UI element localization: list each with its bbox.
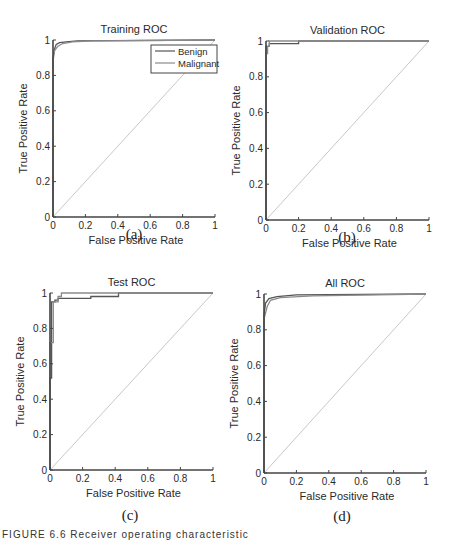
- x-tick-label: 0.4: [322, 476, 336, 487]
- x-tick-label: 0.8: [387, 476, 401, 487]
- x-tick-label: 0.8: [173, 473, 187, 484]
- x-tick-label: 0.8: [176, 220, 190, 231]
- y-tick-label: 1: [257, 36, 263, 47]
- legend-label-malignant: Malignant: [178, 58, 220, 69]
- y-tick-label: 0: [44, 212, 50, 223]
- y-tick-label: 0.2: [33, 429, 47, 440]
- y-tick-label: 0.8: [33, 323, 47, 334]
- y-tick-label: 0: [255, 468, 261, 479]
- x-tick-label: 0.6: [141, 473, 155, 484]
- x-tick-label: 0.8: [389, 223, 403, 234]
- roc-chart-training: Training ROC00.20.40.60.8100.20.40.60.81…: [0, 0, 230, 250]
- y-axis-label: True Positive Rate: [14, 336, 26, 426]
- sub-label-b: (b): [327, 229, 367, 246]
- x-tick-label: 0: [47, 473, 53, 484]
- x-tick-label: 0.2: [76, 473, 90, 484]
- x-tick-label: 1: [212, 220, 218, 231]
- y-tick-label: 0.8: [36, 70, 50, 81]
- roc-chart-test: Test ROC00.20.40.60.8100.20.40.60.81Fals…: [0, 255, 230, 505]
- y-axis-label: True Positive Rate: [230, 85, 242, 175]
- chart-title: All ROC: [325, 277, 365, 289]
- x-tick-label: 0.2: [289, 476, 303, 487]
- chart-title: Training ROC: [101, 23, 168, 35]
- y-tick-label: 0.6: [249, 107, 263, 118]
- sub-label-a: (a): [114, 226, 154, 243]
- x-axis-label: False Positive Rate: [300, 490, 395, 502]
- x-tick-label: 0.4: [108, 473, 122, 484]
- chart-panel-d: All ROC00.20.40.60.8100.20.40.60.81False…: [226, 255, 453, 505]
- y-tick-label: 0.6: [36, 105, 50, 116]
- legend-label-benign: Benign: [178, 46, 208, 57]
- roc-chart-validation: Validation ROC00.20.40.60.8100.20.40.60.…: [226, 0, 453, 250]
- series-chance: [50, 293, 213, 470]
- series-chance: [264, 294, 426, 473]
- x-tick-label: 0: [50, 220, 56, 231]
- sub-label-d: (d): [322, 508, 362, 525]
- sub-label-c: (c): [110, 507, 150, 524]
- y-tick-label: 0.8: [247, 324, 261, 335]
- x-tick-label: 0.6: [354, 476, 368, 487]
- x-axis-label: False Positive Rate: [86, 487, 181, 499]
- y-axis-label: True Positive Rate: [228, 338, 240, 428]
- y-tick-label: 0.4: [33, 394, 47, 405]
- x-tick-label: 1: [426, 223, 432, 234]
- chart-title: Validation ROC: [310, 24, 385, 36]
- y-tick-label: 0.6: [33, 358, 47, 369]
- x-tick-label: 0.2: [292, 223, 306, 234]
- y-tick-label: 0.4: [247, 396, 261, 407]
- y-tick-label: 0: [257, 215, 263, 226]
- roc-chart-all: All ROC00.20.40.60.8100.20.40.60.81False…: [226, 255, 453, 505]
- y-tick-label: 0.2: [36, 176, 50, 187]
- y-tick-label: 0.2: [249, 179, 263, 190]
- x-tick-label: 1: [423, 476, 429, 487]
- y-tick-label: 0.6: [247, 360, 261, 371]
- x-tick-label: 0.2: [78, 220, 92, 231]
- y-tick-label: 0.2: [247, 432, 261, 443]
- y-tick-label: 0.8: [249, 71, 263, 82]
- chart-panel-c: Test ROC00.20.40.60.8100.20.40.60.81Fals…: [0, 255, 230, 505]
- chart-panel-a: Training ROC00.20.40.60.8100.20.40.60.81…: [0, 0, 230, 250]
- x-tick-label: 1: [210, 473, 216, 484]
- y-tick-label: 0: [41, 465, 47, 476]
- chart-panel-b: Validation ROC00.20.40.60.8100.20.40.60.…: [226, 0, 453, 250]
- x-tick-label: 0: [261, 476, 267, 487]
- x-tick-label: 0: [263, 223, 269, 234]
- y-axis-label: True Positive Rate: [17, 83, 29, 173]
- y-tick-label: 1: [44, 35, 50, 46]
- chart-title: Test ROC: [108, 276, 156, 288]
- y-tick-label: 1: [41, 288, 47, 299]
- series-chance: [266, 41, 429, 220]
- y-tick-label: 0.4: [36, 141, 50, 152]
- y-tick-label: 0.4: [249, 143, 263, 154]
- y-tick-label: 1: [255, 289, 261, 300]
- figure-caption: FIGURE 6.6 Receiver operating characteri…: [2, 529, 249, 540]
